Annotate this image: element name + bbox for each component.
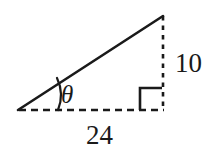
opposite-side-label: 10	[175, 50, 202, 77]
angle-theta-label: θ	[61, 82, 73, 107]
right-angle-marker-icon	[140, 88, 162, 110]
geometry-figure: 10 24 θ	[0, 0, 214, 155]
adjacent-side-label: 24	[86, 122, 113, 149]
